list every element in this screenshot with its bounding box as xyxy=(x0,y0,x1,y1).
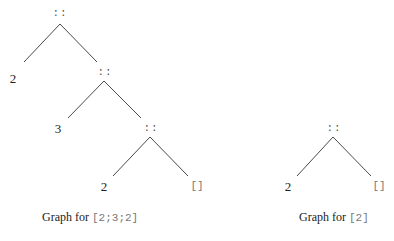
nil-node: [] xyxy=(190,181,203,192)
edge-root-right xyxy=(60,24,97,62)
cons-node: :: xyxy=(143,123,158,134)
edge-right-root-left xyxy=(297,137,333,176)
caption-left: Graph for [2;3;2] xyxy=(42,211,138,224)
edge-cons3-left xyxy=(113,137,150,176)
cons-node: :: xyxy=(326,123,341,134)
edge-cons3-right xyxy=(150,137,188,176)
edge-cons2-left xyxy=(68,81,104,118)
edge-root-left xyxy=(24,24,60,62)
list-graph-diagram: :: 2 :: 3 :: 2 [] :: 2 [] Graph for [2;3… xyxy=(0,0,394,241)
cons-node: :: xyxy=(97,67,112,78)
caption-prefix: Graph for xyxy=(299,210,349,224)
caption-code: [2] xyxy=(349,212,369,224)
edge-cons2-right xyxy=(104,81,141,118)
value-node: 2 xyxy=(285,180,292,193)
caption-right: Graph for [2] xyxy=(299,211,369,224)
value-node: 3 xyxy=(55,122,62,135)
nil-node: [] xyxy=(372,181,385,192)
cons-node: :: xyxy=(52,8,67,19)
caption-prefix: Graph for xyxy=(42,210,92,224)
caption-code: [2;3;2] xyxy=(92,212,138,224)
edge-right-root-right xyxy=(333,137,371,176)
value-node: 2 xyxy=(101,180,108,193)
value-node: 2 xyxy=(10,72,17,85)
